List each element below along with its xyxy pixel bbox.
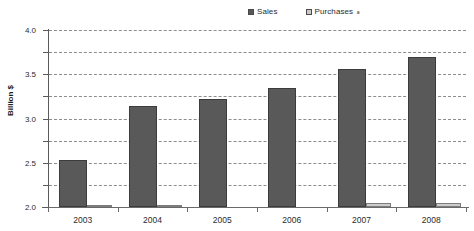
y-axis-label: 2.5	[25, 158, 36, 167]
legend-label-purchases: Purchases	[315, 8, 354, 16]
x-axis-tick	[257, 207, 258, 212]
y-axis-label: 4.0	[25, 26, 36, 35]
bar-sales-2004	[129, 106, 157, 207]
plot-area: 0.00.51.01.52.02.53.03.54.0 200320042005…	[48, 30, 466, 207]
x-axis-label-2003: 2003	[73, 215, 92, 225]
bar-purchases-2008	[436, 203, 461, 207]
x-axis-label-2008: 2008	[422, 215, 441, 225]
y-axis-label: 2.0	[25, 203, 36, 212]
legend-label-purchases-superscript: a	[357, 10, 360, 15]
bars-layer	[49, 30, 466, 207]
bar-purchases-2004	[157, 205, 182, 207]
legend-swatch-sales-icon	[248, 9, 254, 15]
x-axis-label-2004: 2004	[143, 215, 162, 225]
bar-sales-2006	[268, 88, 296, 207]
chart-legend: Sales Purchasesa	[248, 5, 360, 19]
bar-sales-2007	[338, 69, 366, 207]
bar-chart: Sales Purchasesa Billion $ 0.00.51.01.52…	[0, 0, 474, 231]
x-axis-tick	[118, 207, 119, 212]
legend-swatch-purchases-icon	[306, 9, 312, 15]
y-axis-label: 3.5	[25, 70, 36, 79]
x-axis-tick	[327, 207, 328, 212]
legend-entry-purchases: Purchasesa	[306, 8, 360, 16]
legend-entry-sales: Sales	[248, 8, 278, 16]
x-axis-label-2005: 2005	[213, 215, 232, 225]
x-axis-label-2006: 2006	[282, 215, 301, 225]
bar-sales-2003	[59, 160, 87, 207]
y-axis-label: 3.0	[25, 114, 36, 123]
bar-purchases-2007	[366, 203, 391, 207]
x-axis-tick	[187, 207, 188, 212]
bar-purchases-2003	[87, 205, 112, 207]
x-axis-tick	[48, 207, 49, 212]
bar-sales-2005	[199, 99, 227, 207]
y-axis-title: Billion $	[6, 71, 15, 131]
x-axis-tick	[396, 207, 397, 212]
x-axis-tick	[466, 207, 467, 212]
bar-sales-2008	[408, 57, 436, 207]
legend-label-sales: Sales	[257, 8, 278, 16]
x-axis-label-2007: 2007	[352, 215, 371, 225]
